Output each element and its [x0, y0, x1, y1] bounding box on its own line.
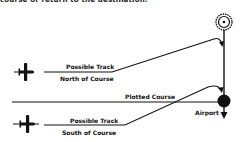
north-track-label-1: Possible Track: [66, 63, 114, 70]
arrow-down-icon: [221, 112, 228, 119]
south-track-label-1: Possible Track: [70, 117, 118, 124]
arrowhead-icon: [219, 41, 224, 47]
north-track-label-2: North of Course: [60, 75, 114, 82]
south-track-label-2: South of Course: [62, 129, 116, 136]
arrowhead-icon: [218, 87, 224, 93]
plotted-course-label: Plotted Course: [125, 93, 175, 100]
vor-icon: [216, 14, 232, 30]
airport-dot-icon: [218, 95, 231, 108]
diagram-lines: [0, 0, 243, 142]
airplane-icon: [14, 63, 34, 81]
airplane-icon: [13, 115, 39, 133]
course-deviation-diagram: course or return to the destination.: [0, 0, 243, 142]
airport-label: Airport: [195, 109, 219, 116]
